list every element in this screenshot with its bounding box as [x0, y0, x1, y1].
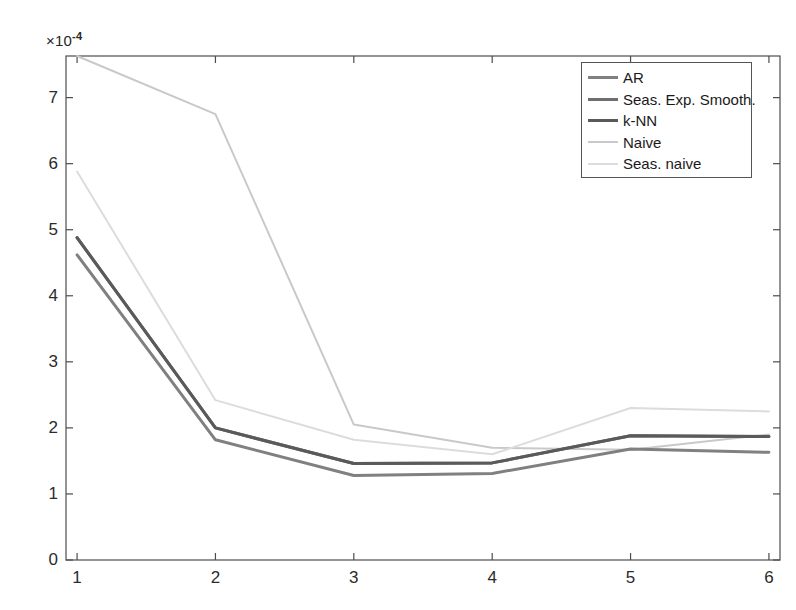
- legend-item-k-nn[interactable]: k-NN: [582, 110, 751, 132]
- y-axis-exponent-prefix: ×10: [46, 32, 72, 49]
- x-tick-label: 3: [341, 568, 367, 588]
- legend-line-swatch: [588, 119, 618, 122]
- y-axis-exponent-label: ×10-4: [46, 30, 82, 50]
- y-tick-label: 3: [34, 352, 58, 372]
- legend-line-swatch: [588, 98, 618, 101]
- legend-item-naive[interactable]: Naive: [582, 132, 751, 154]
- legend-label: AR: [623, 70, 644, 85]
- legend-label: k-NN: [623, 113, 657, 128]
- chart-legend[interactable]: ARSeas. Exp. Smooth.k-NNNaiveSeas. naive: [581, 62, 752, 178]
- x-tick-label: 2: [202, 568, 228, 588]
- x-tick-label: 1: [64, 568, 90, 588]
- chart-figure: ×10-4 01234567 123456 ARSeas. Exp. Smoot…: [0, 0, 796, 610]
- y-tick-label: 7: [34, 88, 58, 108]
- legend-line-swatch: [588, 163, 618, 165]
- y-tick-label: 2: [34, 418, 58, 438]
- legend-line-swatch: [588, 141, 618, 143]
- legend-item-ar[interactable]: AR: [582, 67, 751, 89]
- x-tick-label: 4: [479, 568, 505, 588]
- y-tick-label: 4: [34, 286, 58, 306]
- legend-label: Naive: [623, 135, 661, 150]
- x-tick-label: 5: [618, 568, 644, 588]
- legend-item-seas-exp-smooth[interactable]: Seas. Exp. Smooth.: [582, 89, 751, 111]
- legend-label: Seas. naive: [623, 156, 701, 171]
- y-axis-exponent-value: -4: [72, 30, 82, 42]
- legend-item-seas-naive[interactable]: Seas. naive: [582, 153, 751, 175]
- x-tick-label: 6: [756, 568, 782, 588]
- y-tick-label: 5: [34, 220, 58, 240]
- y-tick-label: 1: [34, 484, 58, 504]
- y-tick-label: 0: [34, 550, 58, 570]
- legend-line-swatch: [588, 76, 618, 79]
- y-tick-label: 6: [34, 154, 58, 174]
- legend-label: Seas. Exp. Smooth.: [623, 92, 756, 107]
